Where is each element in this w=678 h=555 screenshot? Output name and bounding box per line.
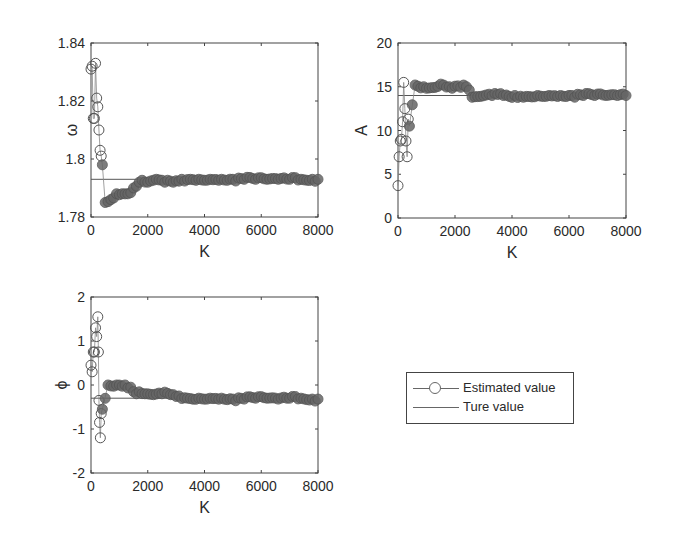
estimated-value-line bbox=[91, 317, 318, 438]
x-tick-label: 4000 bbox=[496, 223, 527, 239]
y-tick-label: 0 bbox=[384, 210, 392, 226]
y-tick-label: -2 bbox=[73, 465, 86, 481]
x-tick-label: 8000 bbox=[302, 478, 333, 494]
y-tick-label: 1.82 bbox=[58, 93, 85, 109]
x-tick-label: 2000 bbox=[132, 222, 163, 238]
x-axis-label: K bbox=[507, 244, 518, 261]
legend-entry-estimated: Estimated value bbox=[407, 380, 573, 398]
y-tick-label: 1.8 bbox=[66, 151, 86, 167]
x-tick-label: 6000 bbox=[246, 222, 277, 238]
y-axis-label: ω bbox=[63, 124, 80, 137]
x-axis-label: K bbox=[199, 243, 210, 260]
estimated-value-markers bbox=[86, 58, 323, 207]
x-tick-label: 2000 bbox=[132, 478, 163, 494]
subplot-3: 02000400060008000-2-1012Kϕ bbox=[53, 289, 334, 516]
estimated-value-markers bbox=[86, 312, 323, 443]
y-tick-label: 5 bbox=[384, 166, 392, 182]
figure-canvas: 020004000600080001.781.81.821.84Kω020004… bbox=[0, 0, 678, 555]
x-tick-label: 8000 bbox=[302, 222, 333, 238]
y-tick-label: 1.84 bbox=[58, 35, 85, 51]
circle-marker-icon bbox=[429, 382, 441, 394]
x-tick-label: 4000 bbox=[189, 478, 220, 494]
y-tick-label: 2 bbox=[77, 289, 85, 305]
y-axis-label: A bbox=[353, 125, 370, 136]
y-tick-label: 1 bbox=[77, 333, 85, 349]
x-tick-label: 0 bbox=[87, 222, 95, 238]
y-tick-label: 15 bbox=[376, 79, 392, 95]
x-tick-label: 0 bbox=[87, 478, 95, 494]
estimated-value-markers bbox=[393, 77, 631, 190]
legend-line-icon bbox=[413, 407, 459, 408]
x-tick-label: 2000 bbox=[439, 223, 470, 239]
x-tick-label: 0 bbox=[394, 223, 402, 239]
legend-label-estimated: Estimated value bbox=[463, 380, 556, 395]
subplot-2: 0200040006000800005101520KA bbox=[353, 35, 642, 261]
axes-box bbox=[398, 43, 626, 218]
y-tick-label: 0 bbox=[77, 377, 85, 393]
legend-label-true: Ture value bbox=[463, 399, 524, 414]
x-tick-label: 6000 bbox=[553, 223, 584, 239]
y-tick-label: 20 bbox=[376, 35, 392, 51]
x-tick-label: 6000 bbox=[246, 478, 277, 494]
legend-entry-true: Ture value bbox=[407, 399, 573, 417]
x-tick-label: 8000 bbox=[610, 223, 641, 239]
y-tick-label: -1 bbox=[73, 421, 86, 437]
subplot-1: 020004000600080001.781.81.821.84Kω bbox=[58, 35, 334, 260]
y-tick-label: 1.78 bbox=[58, 209, 85, 225]
x-tick-label: 4000 bbox=[189, 222, 220, 238]
y-tick-label: 10 bbox=[376, 123, 392, 139]
legend: Estimated value Ture value bbox=[406, 372, 574, 424]
y-axis-label: ϕ bbox=[53, 380, 70, 389]
x-axis-label: K bbox=[199, 499, 210, 516]
